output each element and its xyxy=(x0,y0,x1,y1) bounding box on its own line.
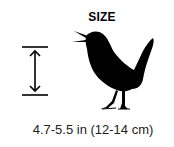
size-title: SIZE xyxy=(15,10,174,24)
bird-silhouette-icon xyxy=(72,27,156,113)
height-arrow-icon xyxy=(21,45,49,97)
size-caption: 4.7-5.5 in (12-14 cm) xyxy=(6,122,174,137)
